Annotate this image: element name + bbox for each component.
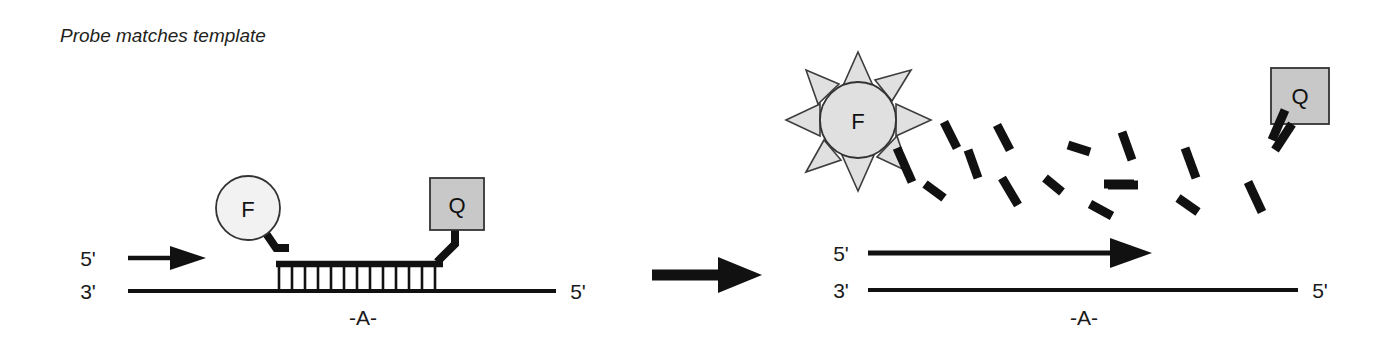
- ray-south: [842, 155, 874, 191]
- right-label-template-3prime: 3': [833, 279, 849, 302]
- right-quencher-tag: Q: [1271, 68, 1329, 150]
- fragment: [1090, 204, 1112, 216]
- fragment: [1045, 178, 1062, 192]
- right-primer-arrowhead: [1110, 238, 1152, 268]
- quencher-letter: Q: [1291, 84, 1308, 109]
- quencher-letter: Q: [448, 193, 465, 218]
- fragment: [997, 125, 1010, 150]
- left-base-label: -A-: [349, 306, 377, 329]
- ray-west: [786, 104, 820, 136]
- left-fluorophore-tag: F: [216, 176, 280, 240]
- right-primer-strand: [868, 238, 1152, 268]
- fluorophore-letter: F: [851, 109, 864, 134]
- fragment: [925, 184, 944, 198]
- fragment: [1002, 178, 1018, 205]
- figure-caption: Probe matches template: [60, 25, 266, 46]
- right-panel: F Q: [786, 52, 1329, 329]
- left-quencher-tag: Q: [430, 178, 484, 230]
- left-primer-arrowhead: [170, 246, 206, 270]
- cleavage-transition-arrow: [652, 257, 762, 293]
- fluorophore-letter: F: [241, 197, 254, 222]
- right-label-primer-5prime: 5': [833, 242, 849, 265]
- left-label-primer-5prime: 5': [80, 247, 96, 270]
- fragment: [968, 150, 978, 178]
- fragment: [1185, 148, 1196, 178]
- left-base-pair-rungs: [279, 265, 435, 289]
- fragment: [1178, 198, 1198, 212]
- right-fluorophore-tag: F: [820, 82, 896, 158]
- fragment: [944, 122, 957, 148]
- ray-east: [896, 104, 931, 136]
- left-label-template-5prime: 5': [570, 280, 586, 303]
- cleaved-nucleotide-fragments: [897, 110, 1285, 216]
- transition-arrow-head: [718, 257, 762, 293]
- fragment: [1068, 145, 1090, 152]
- taqman-probe-cleavage-figure: Probe matches template: [0, 0, 1390, 358]
- fragment: [1248, 182, 1262, 212]
- fragment: [1122, 132, 1132, 160]
- left-label-template-3prime: 3': [80, 280, 96, 303]
- left-panel: F Q 5' 3' 5' -A-: [80, 176, 586, 329]
- right-base-label: -A-: [1070, 306, 1098, 329]
- right-label-template-5prime: 5': [1312, 279, 1328, 302]
- left-primer-strand: [128, 246, 206, 270]
